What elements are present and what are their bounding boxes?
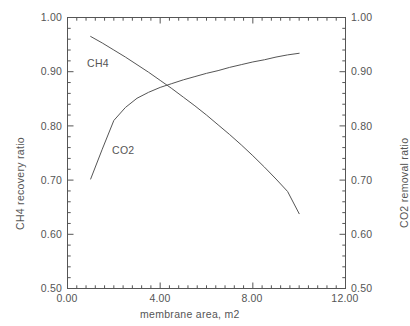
- y-axis-title: CH4 recovery ratio: [14, 137, 26, 230]
- x-axis-tick-label-8-00: 8.00: [232, 292, 272, 304]
- axes-frame: [68, 18, 346, 289]
- y2-axis-tick-label-0-70: 0.70: [351, 174, 391, 186]
- y-axis-tick-label-0-80: 0.80: [22, 120, 62, 132]
- y-axis-tick-label-0-90: 0.90: [22, 65, 62, 77]
- x-axis-title: membrane area, m2: [140, 308, 240, 320]
- x-axis-tick-label-0-00: 0.00: [47, 292, 87, 304]
- y-axis-tick-label-1-00: 1.00: [22, 11, 62, 23]
- series-line-co2: [91, 53, 300, 179]
- y-axis-tick-label-0-70: 0.70: [22, 174, 62, 186]
- y2-axis-title: CO2 removal ratio: [398, 138, 410, 228]
- x-axis-tick-label-4-00: 4.00: [140, 292, 180, 304]
- y2-axis-tick-label-1-00: 1.00: [351, 11, 391, 23]
- y-axis-tick-label-0-60: 0.60: [22, 228, 62, 240]
- y2-axis-tick-label-0-60: 0.60: [351, 228, 391, 240]
- y2-axis-tick-label-0-80: 0.80: [351, 120, 391, 132]
- axis-ticks: [68, 18, 346, 289]
- y2-axis-tick-label-0-90: 0.90: [351, 65, 391, 77]
- data-series-group: [91, 36, 300, 213]
- plot-frame: [68, 18, 346, 289]
- series-label-co2: CO2: [112, 144, 135, 156]
- x-axis-tick-label-12-00: 12.00: [325, 292, 365, 304]
- series-line-ch4: [91, 36, 300, 213]
- series-label-ch4: CH4: [87, 57, 109, 69]
